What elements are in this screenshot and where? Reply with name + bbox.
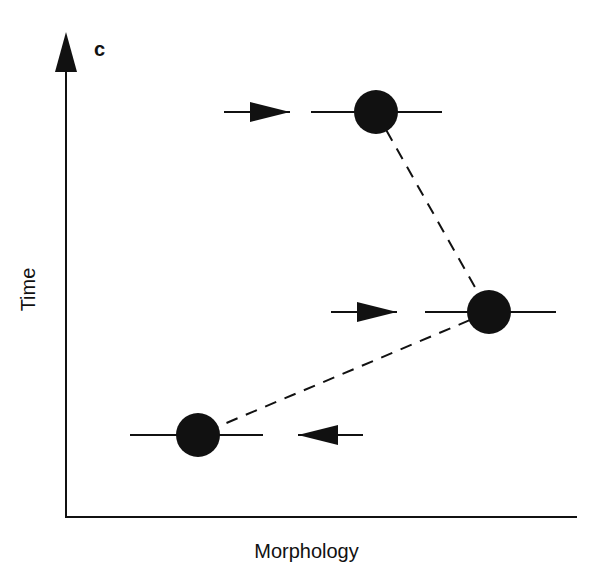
panel-label: c: [94, 38, 105, 61]
node-top: [224, 90, 442, 134]
node-bottom: [130, 413, 363, 457]
y-axis-label: Time: [17, 260, 40, 320]
dashed-link: [376, 112, 489, 312]
nodes: [130, 90, 556, 457]
node-circle-icon: [176, 413, 220, 457]
arrow-right-icon: [250, 102, 290, 122]
dashed-links: [198, 112, 489, 435]
dashed-link: [198, 312, 489, 435]
diagram-canvas: [0, 0, 595, 580]
x-axis-label: Morphology: [0, 540, 595, 563]
node-circle-icon: [354, 90, 398, 134]
node-middle: [331, 290, 556, 334]
y-axis-arrowhead-icon: [55, 32, 77, 72]
arrow-left-icon: [298, 425, 338, 445]
node-circle-icon: [467, 290, 511, 334]
arrow-right-icon: [357, 302, 397, 322]
